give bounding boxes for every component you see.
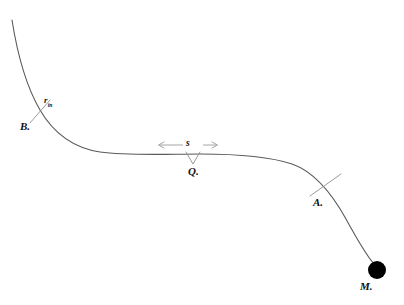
trajectory-curve (12, 20, 374, 264)
label-point-b: B. (20, 121, 30, 132)
label-radius-in-subscript: in (48, 102, 53, 108)
label-point-q: Q. (188, 166, 199, 177)
label-radius-in: rin (44, 96, 52, 107)
figure-canvas: B. rin s Q. A. M. (0, 0, 404, 305)
mass-marker-circle (368, 261, 386, 279)
label-separation-s: s (186, 139, 190, 149)
label-point-a: A. (313, 197, 323, 208)
label-mass-m: M. (360, 281, 373, 292)
diagram-svg (0, 0, 404, 305)
label-radius-in-base: r (44, 95, 48, 105)
